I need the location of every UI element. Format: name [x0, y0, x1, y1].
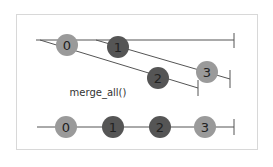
- svg-text:1: 1: [109, 120, 117, 135]
- svg-text:2: 2: [156, 120, 164, 135]
- svg-text:3: 3: [203, 65, 211, 80]
- marble: 0: [56, 34, 78, 56]
- marble: 3: [196, 61, 218, 83]
- marble: 3: [194, 116, 216, 138]
- svg-text:1: 1: [114, 40, 122, 55]
- marble: 1: [102, 116, 124, 138]
- marble: 2: [149, 116, 171, 138]
- svg-text:0: 0: [63, 38, 71, 53]
- svg-text:2: 2: [154, 71, 162, 86]
- marble: 0: [55, 116, 77, 138]
- marble: 1: [107, 36, 129, 58]
- marble-diagram: 0 1 2 3 merge_all() 0 1 2 3: [0, 0, 273, 167]
- svg-text:3: 3: [201, 120, 209, 135]
- marble: 2: [147, 67, 169, 89]
- operator-label: merge_all(): [70, 87, 127, 99]
- svg-text:0: 0: [62, 120, 70, 135]
